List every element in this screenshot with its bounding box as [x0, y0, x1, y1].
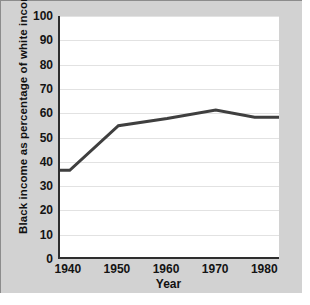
x-axis-tick-label: 1940	[45, 262, 91, 276]
y-axis-tick-label: 70	[40, 83, 53, 95]
y-axis-tick-label: 30	[40, 180, 53, 192]
chart-figure: 0102030405060708090100 Black income as p…	[0, 0, 302, 293]
plot-area	[60, 16, 279, 257]
y-axis-tick-label: 80	[40, 59, 53, 71]
x-axis-tick-label: 1950	[94, 262, 140, 276]
x-axis-tick-label: 1980	[241, 262, 287, 276]
x-axis-tick-label: 1970	[192, 262, 238, 276]
y-axis-title: Black income as percentage of white inco…	[17, 24, 29, 234]
y-axis-tick-label: 60	[40, 107, 53, 119]
y-axis-tick-label: 40	[40, 156, 53, 168]
y-axis-tick-label: 90	[40, 34, 53, 46]
y-axis-tick-label: 10	[40, 229, 53, 241]
line-series	[60, 16, 279, 257]
x-axis-title: Year	[58, 277, 279, 291]
y-axis-tick-label: 50	[40, 132, 53, 144]
y-axis-tick-label: 20	[40, 204, 53, 216]
y-axis-tick-label: 100	[33, 10, 53, 22]
plot-frame	[58, 16, 279, 259]
x-axis-tick-label: 1960	[143, 262, 189, 276]
data-line	[60, 110, 279, 170]
y-axis-tick-labels: 0102030405060708090100	[1, 1, 58, 294]
